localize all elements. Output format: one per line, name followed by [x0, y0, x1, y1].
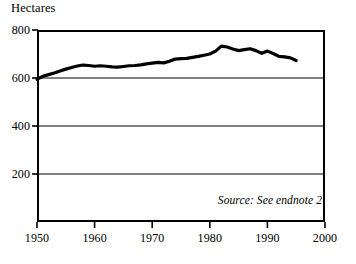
chart-figure: Hectares 800 600 400 — [0, 0, 356, 264]
x-tick-label-1970: 1970 — [129, 232, 175, 244]
y-tick-marks — [32, 30, 38, 174]
x-tick-label-1980: 1980 — [187, 232, 233, 244]
x-tick-label-2000: 2000 — [302, 232, 348, 244]
y-tick-label-200: 200 — [0, 168, 30, 180]
y-tick-label-400: 400 — [0, 120, 30, 132]
data-series-line — [37, 46, 296, 79]
x-tick-label-1990: 1990 — [244, 232, 290, 244]
gridlines — [37, 78, 325, 174]
y-tick-label-600: 600 — [0, 72, 30, 84]
x-tick-label-1950: 1950 — [14, 232, 60, 244]
y-tick-label-800: 800 — [0, 24, 30, 36]
source-note: Source: See endnote 2 — [218, 194, 322, 207]
chart-vector-layer — [0, 0, 356, 264]
x-tick-label-1960: 1960 — [72, 232, 118, 244]
x-tick-marks — [37, 222, 325, 228]
